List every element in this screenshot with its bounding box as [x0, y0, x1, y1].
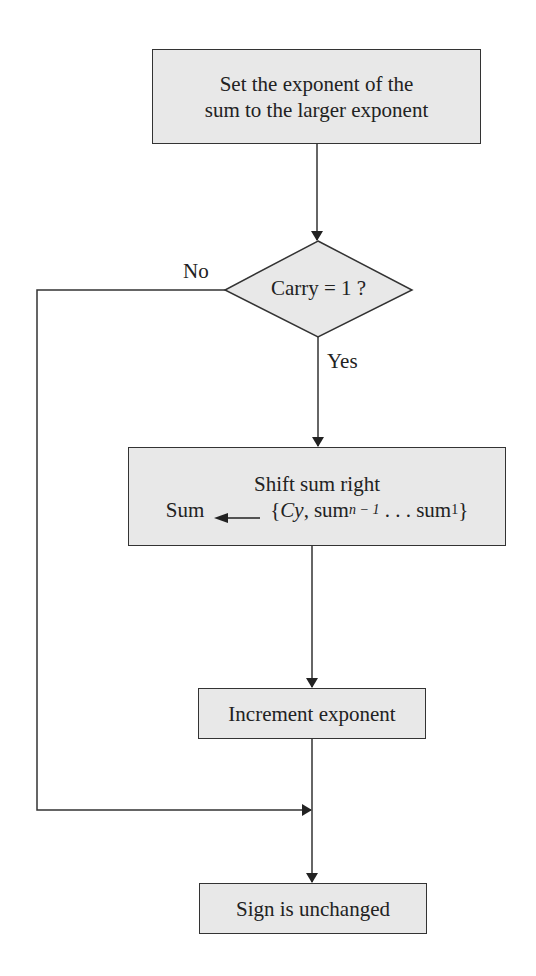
yes-label: Yes [327, 349, 358, 374]
shift-sum-expression: Sum { Cy , sum n − 1 . . . sum 1 } [166, 497, 469, 523]
sum-1-subscript: 1 [451, 497, 458, 523]
sum-n-term: sum [314, 497, 349, 523]
brace-open: { [270, 497, 280, 523]
increment-exponent-box: Increment exponent [198, 688, 426, 739]
set-exponent-line1: Set the exponent of the [220, 71, 414, 97]
left-arrow-icon [214, 504, 260, 516]
shift-sum-box: Shift sum right Sum { Cy , sum n − 1 . .… [128, 447, 506, 546]
shift-sum-title: Shift sum right [254, 471, 380, 497]
no-label: No [183, 259, 209, 284]
increment-exponent-text: Increment exponent [228, 701, 395, 727]
comma: , [304, 497, 309, 523]
set-exponent-line2: sum to the larger exponent [205, 97, 429, 123]
sum-n-subscript: n − 1 [349, 502, 379, 517]
sum-lhs: Sum [166, 497, 205, 523]
sign-unchanged-box: Sign is unchanged [199, 883, 427, 934]
sum-1-term: sum [416, 497, 451, 523]
carry-bit: Cy [280, 497, 303, 523]
brace-close: } [458, 497, 468, 523]
carry-decision-text: Carry = 1 ? [225, 276, 412, 301]
ellipsis: . . . [379, 497, 416, 523]
sign-unchanged-text: Sign is unchanged [236, 896, 390, 922]
set-exponent-box: Set the exponent of the sum to the large… [152, 49, 481, 144]
